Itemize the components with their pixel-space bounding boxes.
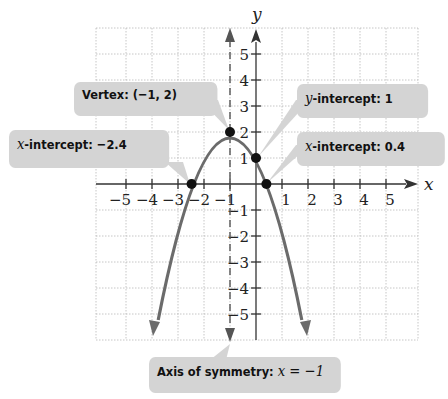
svg-text:3: 3 xyxy=(333,191,343,209)
svg-text:2: 2 xyxy=(239,124,249,142)
svg-text:4: 4 xyxy=(239,72,249,90)
x-intercept-left-callout: x-intercept: −2.4 xyxy=(9,130,169,168)
y-axis-label: y xyxy=(251,4,262,24)
y-int-text: -intercept: 1 xyxy=(312,91,392,106)
vertex-callout: Vertex: (−1, 2) xyxy=(74,82,217,116)
axis-sym-math: x = −1 xyxy=(278,362,324,380)
svg-text:4: 4 xyxy=(359,191,369,209)
x-tick-labels: −5−4−3 −2−11 2345 xyxy=(109,191,395,209)
x-axis xyxy=(96,179,418,189)
x-intercept-right-point xyxy=(261,179,271,189)
svg-text:3: 3 xyxy=(239,98,249,116)
x-intercept-left-point xyxy=(187,179,197,189)
svg-text:−5: −5 xyxy=(109,191,131,209)
curve-arrow-right xyxy=(300,320,311,336)
svg-text:5: 5 xyxy=(385,191,395,209)
x-intercept-right-callout: x-intercept: 0.4 xyxy=(297,132,445,166)
axis-sym-text: Axis of symmetry: xyxy=(157,364,278,379)
svg-text:−3: −3 xyxy=(162,191,184,209)
svg-text:1: 1 xyxy=(239,150,249,168)
svg-text:−4: −4 xyxy=(136,191,158,209)
y-intercept-point xyxy=(251,153,261,163)
svg-text:5: 5 xyxy=(239,46,249,64)
svg-text:2: 2 xyxy=(307,191,317,209)
y-intercept-callout: y-intercept: 1 xyxy=(297,84,428,118)
x-int-left-text: -intercept: −2.4 xyxy=(24,137,126,152)
axis-of-symmetry-callout: Axis of symmetry: x = −1 xyxy=(149,357,341,393)
svg-text:1: 1 xyxy=(281,191,291,209)
vertex-text: Vertex: (−1, 2) xyxy=(82,87,177,102)
parabola-chart: −5−4−3 −2−11 2345 543 21−1 −2−3−4−5 x y xyxy=(0,0,448,399)
curve-arrow-left xyxy=(149,320,160,336)
x-axis-label: x xyxy=(424,174,434,194)
vertex-point xyxy=(225,127,235,137)
x-int-right-text: -intercept: 0.4 xyxy=(312,139,405,154)
